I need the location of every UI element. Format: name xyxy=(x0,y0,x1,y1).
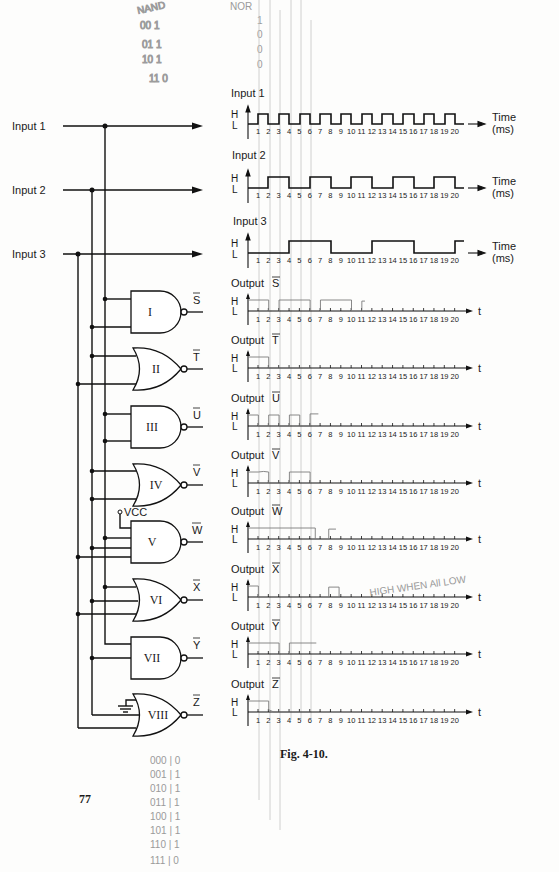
output-W-label: W xyxy=(192,524,203,536)
tick-label: 8 xyxy=(328,315,332,324)
tick-label: 14 xyxy=(388,601,396,610)
tick-label: 1 xyxy=(256,716,260,725)
tick-label: 2 xyxy=(266,658,270,667)
tick-label: 2 xyxy=(266,256,270,265)
tick-label: 9 xyxy=(339,716,343,725)
handwritten-x-note: HIGH WHEN All LOW xyxy=(369,573,467,598)
tick-label: 3 xyxy=(277,543,281,552)
svg-text:L: L xyxy=(232,592,238,603)
tick-label: 16 xyxy=(409,658,417,667)
handwritten-waveform xyxy=(248,586,339,597)
tick-label: 20 xyxy=(450,191,458,200)
tick-label: 4 xyxy=(287,658,291,667)
tick-label: 14 xyxy=(388,256,396,265)
tick-label: 16 xyxy=(409,601,417,610)
tick-label: 5 xyxy=(297,372,301,381)
tick-label: 2 xyxy=(266,372,270,381)
input-1-label: Input 1 xyxy=(12,120,46,132)
tick-label: 16 xyxy=(409,127,417,136)
tick-label: 15 xyxy=(399,372,407,381)
tick-label: 10 xyxy=(347,191,355,200)
svg-text:110 | 1: 110 | 1 xyxy=(150,839,180,850)
tick-label: 3 xyxy=(277,430,281,439)
tick-label: 8 xyxy=(328,601,332,610)
gate-III-label: III xyxy=(146,420,158,434)
svg-text:111 | 0: 111 | 0 xyxy=(150,855,179,866)
tick-label: 10 xyxy=(347,372,355,381)
tick-label: 11 xyxy=(358,256,366,265)
tick-label: 12 xyxy=(368,430,376,439)
tick-label: 17 xyxy=(419,372,427,381)
gate-VI-label: VI xyxy=(150,593,163,607)
tick-label: 19 xyxy=(440,430,448,439)
tick-label: 5 xyxy=(297,191,301,200)
tick-label: 1 xyxy=(256,487,260,496)
tick-label: 3 xyxy=(277,315,281,324)
tick-label: 20 xyxy=(450,716,458,725)
chart-title: Output xyxy=(231,277,264,289)
svg-text:Time: Time xyxy=(492,111,516,123)
tick-label: 5 xyxy=(297,716,301,725)
chart-var: Z xyxy=(272,678,279,690)
chart-var: X xyxy=(272,563,280,575)
tick-label: 17 xyxy=(419,658,427,667)
tick-label: 17 xyxy=(419,543,427,552)
tick-label: 18 xyxy=(430,372,438,381)
tick-label: 6 xyxy=(308,256,312,265)
gate-II-label: II xyxy=(152,362,160,376)
output-V-label: V xyxy=(193,466,201,478)
svg-text:0: 0 xyxy=(257,59,263,70)
chart-title: Output xyxy=(231,334,264,346)
tick-label: 7 xyxy=(318,487,322,496)
handwritten-waveform xyxy=(248,528,336,539)
svg-text:0: 0 xyxy=(257,29,263,40)
svg-text:H: H xyxy=(231,109,238,120)
tick-label: 1 xyxy=(256,430,260,439)
tick-label: 19 xyxy=(440,315,448,324)
tick-label: 9 xyxy=(339,430,343,439)
tick-label: 20 xyxy=(450,372,458,381)
tick-label: 6 xyxy=(308,315,312,324)
tick-label-rows: 1234567891011121314151617181920123456789… xyxy=(256,127,459,265)
svg-text:10 1: 10 1 xyxy=(142,54,162,65)
tick-label: 8 xyxy=(328,256,332,265)
tick-label: 3 xyxy=(277,256,281,265)
tick-label: 7 xyxy=(318,716,322,725)
output-X-label: X xyxy=(193,581,201,593)
svg-text:001 | 1: 001 | 1 xyxy=(150,769,181,780)
tick-label: 13 xyxy=(378,256,386,265)
tick-label: 14 xyxy=(388,127,396,136)
tick-label: 1 xyxy=(256,372,260,381)
tick-label: 13 xyxy=(378,315,386,324)
tick-label: 20 xyxy=(450,127,458,136)
handwritten-waveform xyxy=(248,300,365,311)
tick-label: 19 xyxy=(440,256,448,265)
tick-label: 16 xyxy=(409,315,417,324)
tick-label: 3 xyxy=(277,601,281,610)
tick-label: 16 xyxy=(409,487,417,496)
tick-label: 3 xyxy=(277,487,281,496)
tick-label: 15 xyxy=(399,543,407,552)
tick-label: 10 xyxy=(347,127,355,136)
tick-label: 13 xyxy=(378,430,386,439)
tick-label: 11 xyxy=(358,543,366,552)
tick-label: 14 xyxy=(388,191,396,200)
svg-text:L: L xyxy=(232,421,238,432)
tick-label: 13 xyxy=(378,372,386,381)
tick-label: 6 xyxy=(308,127,312,136)
svg-text:H: H xyxy=(231,238,238,249)
chart-var: V xyxy=(272,449,280,461)
figure-canvas: NAND 01 1 10 1 11 0 00 1 NOR 1 0 0 0 xyxy=(0,0,559,872)
tick-label: 11 xyxy=(358,430,366,439)
svg-text:t: t xyxy=(478,362,481,374)
tick-label: 19 xyxy=(440,487,448,496)
svg-text:L: L xyxy=(232,363,238,374)
tick-label: 6 xyxy=(308,487,312,496)
svg-text:L: L xyxy=(232,184,238,195)
tick-label: 14 xyxy=(388,543,396,552)
output-chart-W: OutputWHLt123456789101112131415161718192… xyxy=(231,505,481,553)
tick-label: 4 xyxy=(287,315,291,324)
tick-label: 12 xyxy=(368,716,376,725)
tick-label: 9 xyxy=(339,256,343,265)
tick-label: 15 xyxy=(399,601,407,610)
